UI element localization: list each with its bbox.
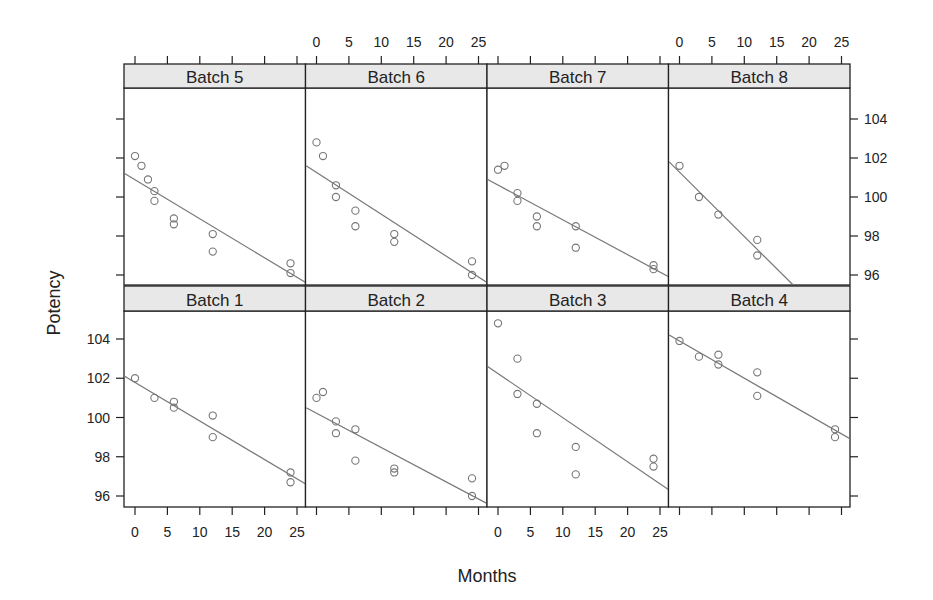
y-tick-label: 96 (864, 267, 880, 283)
strip-label: Batch 2 (367, 291, 425, 310)
panel-batch-2: Batch 2 (306, 286, 488, 507)
x-tick-label: 10 (374, 34, 390, 50)
x-tick-label: 15 (224, 524, 240, 540)
x-tick-label: 5 (527, 524, 535, 540)
x-tick-label: 0 (494, 524, 502, 540)
y-tick-label: 98 (94, 449, 110, 465)
y-tick-label: 100 (864, 189, 888, 205)
panel-batch-5: Batch 5 (124, 64, 306, 285)
x-tick-label: 25 (652, 524, 668, 540)
lattice-scatter-chart: Batch 5Batch 6Batch 7Batch 8Batch 1Batch… (0, 0, 933, 600)
panel-batch-3: Batch 3 (487, 286, 669, 507)
panel-frame (306, 311, 488, 507)
x-tick-label: 20 (438, 34, 454, 50)
panel-frame (124, 88, 306, 285)
y-tick-label: 102 (864, 150, 888, 166)
panel-frame (124, 311, 306, 507)
x-tick-label: 10 (737, 34, 753, 50)
x-tick-label: 15 (769, 34, 785, 50)
panel-batch-1: Batch 1 (124, 286, 306, 507)
y-axis-title: Potency (44, 270, 64, 335)
panel-grid: Batch 5Batch 6Batch 7Batch 8Batch 1Batch… (124, 64, 851, 507)
x-tick-label: 20 (620, 524, 636, 540)
panel-frame (487, 88, 669, 285)
strip-label: Batch 5 (186, 68, 244, 87)
x-tick-label: 25 (471, 34, 487, 50)
panel-batch-4: Batch 4 (669, 286, 851, 507)
x-tick-label: 0 (313, 34, 321, 50)
panel-batch-6: Batch 6 (306, 64, 488, 285)
x-tick-label: 20 (801, 34, 817, 50)
panel-batch-7: Batch 7 (487, 64, 669, 285)
y-tick-label: 96 (94, 488, 110, 504)
y-tick-label: 100 (87, 410, 111, 426)
x-tick-label: 5 (708, 34, 716, 50)
x-axis-title: Months (457, 566, 516, 586)
x-tick-label: 0 (131, 524, 139, 540)
panel-frame (669, 311, 851, 507)
x-tick-label: 15 (406, 34, 422, 50)
x-tick-label: 25 (289, 524, 305, 540)
panel-frame (669, 88, 851, 285)
panel-batch-8: Batch 8 (669, 64, 851, 285)
x-tick-label: 15 (587, 524, 603, 540)
x-tick-label: 25 (834, 34, 850, 50)
x-tick-label: 5 (164, 524, 172, 540)
y-tick-label: 104 (864, 111, 888, 127)
y-tick-label: 98 (864, 228, 880, 244)
strip-label: Batch 4 (730, 291, 788, 310)
x-tick-label: 10 (192, 524, 208, 540)
strip-label: Batch 8 (730, 68, 788, 87)
x-tick-label: 0 (676, 34, 684, 50)
strip-label: Batch 6 (367, 68, 425, 87)
strip-label: Batch 7 (549, 68, 607, 87)
strip-label: Batch 3 (549, 291, 607, 310)
x-tick-label: 5 (345, 34, 353, 50)
y-tick-label: 104 (87, 331, 111, 347)
strip-label: Batch 1 (186, 291, 244, 310)
x-tick-label: 20 (257, 524, 273, 540)
x-tick-label: 10 (555, 524, 571, 540)
y-tick-label: 102 (87, 370, 111, 386)
